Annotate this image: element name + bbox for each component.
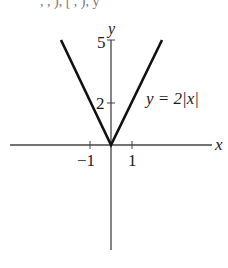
x-tick-label-pos1: 1 [128, 151, 137, 170]
x-tick-label-neg1: −1 [77, 151, 95, 170]
equation-label: y = 2|x| [144, 89, 199, 108]
x-axis-label: x [214, 135, 223, 154]
cropped-header-text: , , ), [ , ), y [40, 0, 100, 10]
graph-canvas: , , ), [ , ), y −1 1 2 5 y x y = 2|x| [0, 0, 228, 268]
y-axis-label: y [106, 20, 116, 38]
y-tick-label-2: 2 [96, 94, 105, 113]
y-tick-label-5: 5 [97, 33, 106, 52]
